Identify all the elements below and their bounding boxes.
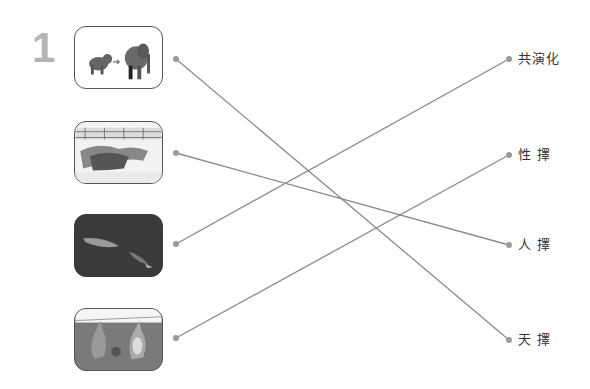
connection-line: [176, 59, 509, 244]
right-dot[interactable]: [506, 152, 512, 158]
left-dot[interactable]: [173, 241, 179, 247]
label-sexual-selection: 性 擇: [518, 147, 551, 163]
left-dot[interactable]: [173, 56, 179, 62]
connection-line: [176, 153, 509, 245]
right-dot[interactable]: [506, 56, 512, 62]
left-dot[interactable]: [173, 150, 179, 156]
label-artificial-selection: 人 擇: [518, 237, 551, 253]
label-natural-selection: 天 擇: [518, 332, 551, 348]
right-dot[interactable]: [506, 337, 512, 343]
right-dot[interactable]: [506, 242, 512, 248]
connection-line: [176, 155, 509, 338]
connection-lines: [0, 0, 590, 389]
label-coevolution: 共演化: [518, 51, 560, 67]
left-dot[interactable]: [173, 335, 179, 341]
